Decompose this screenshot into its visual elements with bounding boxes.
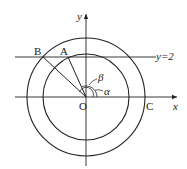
angle-alpha-label: α bbox=[104, 85, 110, 97]
angle-beta-label: β bbox=[97, 71, 104, 83]
line-label: y=2 bbox=[155, 50, 174, 62]
x-axis-label: x bbox=[172, 100, 178, 112]
angle-beta-arc bbox=[80, 87, 94, 97]
y-axis-label: y bbox=[76, 10, 82, 22]
origin-label: O bbox=[79, 100, 87, 112]
point-C-label: C bbox=[146, 100, 153, 112]
point-B-label: B bbox=[34, 45, 41, 57]
point-A-label: A bbox=[60, 45, 68, 57]
beta-leader bbox=[89, 79, 97, 85]
alpha-leader bbox=[95, 90, 103, 91]
geometry-diagram: y x y=2 B A O C α β bbox=[0, 0, 187, 169]
segment-OA bbox=[68, 57, 86, 97]
